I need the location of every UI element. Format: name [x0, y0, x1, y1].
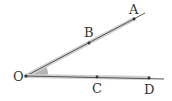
label-C: C	[92, 81, 102, 96]
ray-OA	[26, 13, 145, 76]
angle-diagram: O B A C D	[0, 0, 172, 101]
point-O	[24, 74, 27, 77]
point-D	[148, 77, 151, 80]
point-A	[133, 18, 136, 21]
label-O: O	[13, 69, 24, 84]
point-C	[96, 76, 99, 79]
label-A: A	[128, 2, 139, 17]
point-B	[88, 42, 91, 45]
label-B: B	[84, 25, 94, 40]
label-D: D	[144, 82, 154, 97]
